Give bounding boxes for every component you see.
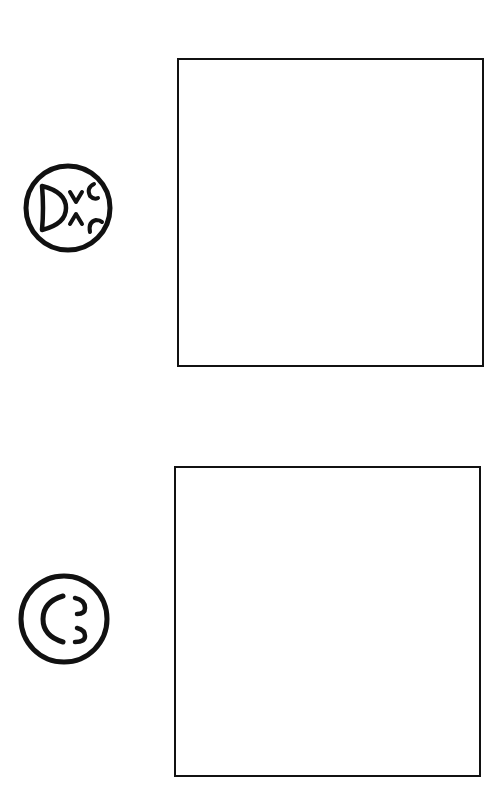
- drawing-box-1: [177, 58, 484, 367]
- drawing-box-2: [174, 466, 481, 777]
- bleed-through-text: [30, 6, 490, 36]
- circle-d-arrows-icon: [22, 162, 114, 254]
- circle-c-hooks-icon: [17, 572, 111, 666]
